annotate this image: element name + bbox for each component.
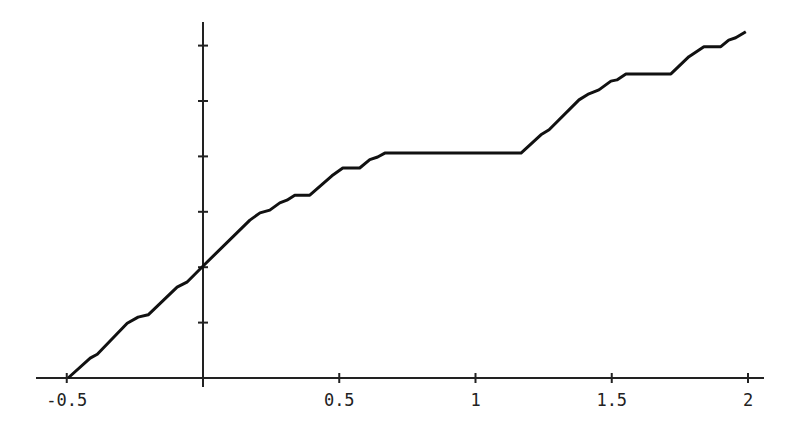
x-tick-label: 1.5 [596, 390, 627, 410]
data-line [68, 32, 746, 378]
x-tick-label: 2 [743, 390, 753, 410]
x-tick-label: 1 [470, 390, 480, 410]
axes [36, 22, 764, 387]
x-tick-label: 0.5 [324, 390, 355, 410]
x-tick-label: -0.5 [46, 390, 87, 410]
ticks [67, 46, 748, 383]
x-tick-labels: -0.50.511.52 [46, 390, 753, 410]
line-chart: -0.50.511.52 [0, 0, 802, 426]
